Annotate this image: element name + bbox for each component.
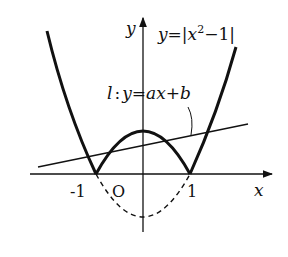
curve-label: y=|x2−1| bbox=[157, 23, 235, 44]
origin-label: O bbox=[112, 182, 125, 201]
line-label: l:y=ax+b bbox=[107, 83, 191, 103]
label-leader bbox=[188, 107, 192, 135]
tick-label-1: 1 bbox=[187, 182, 197, 201]
tick-label-neg1: -1 bbox=[70, 182, 86, 201]
y-axis-label: y bbox=[125, 18, 136, 38]
curve-right-branch bbox=[190, 47, 236, 174]
x-axis-label: x bbox=[254, 180, 264, 200]
graph: y x O -1 1 y=|x2−1| l:y=ax+b bbox=[0, 0, 288, 257]
curve-left-branch bbox=[47, 31, 96, 174]
